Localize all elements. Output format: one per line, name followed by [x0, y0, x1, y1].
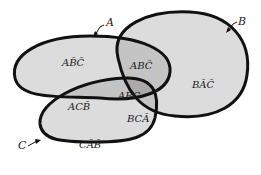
- region-abc-label: ABC: [117, 90, 141, 101]
- region-b-only-label: BĀC̄: [191, 79, 215, 90]
- set-b-label: B: [237, 15, 246, 28]
- region-a-only-label: AB̄C̄: [61, 57, 85, 68]
- set-a-label: A: [105, 16, 114, 29]
- region-bc-only-label: BCĀ: [126, 113, 149, 124]
- region-ab-only-label: ABC̄: [129, 60, 153, 71]
- set-c-label: C: [18, 139, 27, 152]
- venn-diagram: A B C AB̄C̄ ABC̄ BĀC̄ ACB̄ ABC BCĀ CĀB̄: [0, 0, 261, 175]
- region-c-only-label: CĀB̄: [79, 139, 101, 150]
- region-ac-only-label: ACB̄: [67, 101, 90, 112]
